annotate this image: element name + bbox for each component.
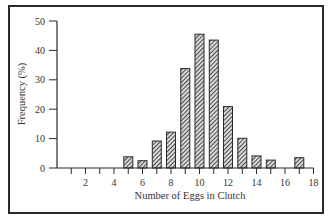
y-tick-label: 0 bbox=[40, 163, 45, 174]
x-tick-label: 4 bbox=[112, 177, 117, 188]
x-tick-label: 2 bbox=[83, 177, 88, 188]
x-tick-label: 8 bbox=[169, 177, 174, 188]
y-axis-title: Frequency (%) bbox=[16, 62, 28, 125]
bar-10 bbox=[195, 34, 204, 168]
x-axis-title: Number of Eggs in Clutch bbox=[135, 190, 247, 201]
bar-15 bbox=[266, 160, 275, 168]
bar-8 bbox=[167, 132, 176, 168]
x-tick-label: 14 bbox=[252, 177, 262, 188]
bars-group bbox=[124, 34, 304, 168]
bar-11 bbox=[209, 40, 218, 168]
x-tick-label: 6 bbox=[140, 177, 145, 188]
x-tick-label: 16 bbox=[280, 177, 290, 188]
x-tick-label: 10 bbox=[195, 177, 205, 188]
y-tick-label: 30 bbox=[35, 74, 45, 85]
bar-6 bbox=[138, 161, 147, 168]
x-tick-label: 12 bbox=[223, 177, 233, 188]
bar-9 bbox=[181, 69, 190, 168]
x-tick-label: 18 bbox=[309, 177, 319, 188]
histogram-chart: 01020304050 24681012141618 Number of Egg… bbox=[0, 0, 330, 221]
bar-14 bbox=[252, 156, 261, 168]
y-tick-label: 10 bbox=[35, 133, 45, 144]
bar-7 bbox=[152, 141, 161, 168]
bar-12 bbox=[224, 107, 233, 168]
y-tick-label: 50 bbox=[35, 16, 45, 27]
bar-13 bbox=[238, 138, 247, 168]
y-tick-label: 40 bbox=[35, 45, 45, 56]
y-axis: 01020304050 bbox=[35, 16, 57, 174]
x-axis: 24681012141618 bbox=[57, 168, 319, 188]
bar-5 bbox=[124, 157, 133, 168]
y-tick-label: 20 bbox=[35, 104, 45, 115]
bar-17 bbox=[295, 158, 304, 168]
